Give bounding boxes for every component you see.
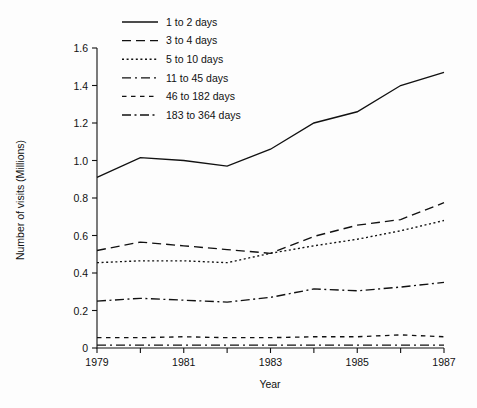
series-line-4 [97, 335, 444, 338]
legend-label-1: 3 to 4 days [166, 34, 217, 46]
y-tick-label: 1.2 [73, 117, 88, 129]
y-tick-label: 0.4 [73, 267, 88, 279]
y-tick-label: 1.4 [73, 80, 88, 92]
y-axis-title: Number of visits (Millions) [14, 140, 26, 260]
series-line-0 [97, 72, 444, 177]
legend-label-0: 1 to 2 days [166, 16, 217, 28]
legend-label-5: 183 to 364 days [166, 109, 241, 121]
legend-label-3: 11 to 45 days [166, 72, 228, 84]
y-tick-label: 0.8 [73, 192, 88, 204]
y-tick-label: 0.6 [73, 230, 88, 242]
x-tick-label: 1981 [172, 356, 196, 368]
x-tick-label: 1983 [259, 356, 283, 368]
series-layer [97, 72, 444, 345]
legend-layer: 1 to 2 days3 to 4 days5 to 10 days11 to … [122, 16, 241, 121]
y-tick-label: 0.2 [73, 305, 88, 317]
x-tick-label: 1985 [346, 356, 370, 368]
legend-label-4: 46 to 182 days [166, 90, 235, 102]
y-tick-label: 1.0 [73, 155, 88, 167]
line-chart: 00.20.40.60.81.01.21.41.6197919811983198… [0, 0, 477, 408]
x-tick-label: 1979 [85, 356, 109, 368]
chart-canvas: 00.20.40.60.81.01.21.41.6197919811983198… [0, 0, 477, 408]
x-tick-label: 1987 [432, 356, 456, 368]
series-line-5 [97, 282, 444, 302]
y-tick-label: 0 [82, 342, 88, 354]
axis-lines [97, 48, 444, 348]
plot-area [97, 72, 444, 345]
series-line-1 [97, 203, 444, 254]
series-line-2 [97, 221, 444, 263]
x-axis-title: Year [259, 378, 281, 390]
legend-label-2: 5 to 10 days [166, 53, 223, 65]
axes-layer: 00.20.40.60.81.01.21.41.6197919811983198… [73, 42, 455, 368]
y-tick-label: 1.6 [73, 42, 88, 54]
